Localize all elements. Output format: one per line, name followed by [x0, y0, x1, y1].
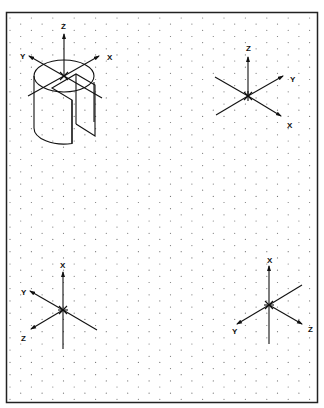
- isometric-drawing-canvas: Z Y X Z Y X X Y Z: [0, 0, 324, 408]
- ucs-icon-bottom-left: X Y Z: [21, 261, 97, 349]
- axis-label-z: Z: [246, 44, 251, 53]
- axis-label-x: X: [287, 121, 293, 130]
- ucs-icon-top-right: Z Y X: [215, 44, 296, 130]
- axis-label-x: X: [60, 261, 66, 270]
- axis-label-y: Y: [290, 75, 296, 84]
- axis-label-z: Z: [21, 334, 26, 343]
- axis-label-y: Y: [232, 327, 238, 336]
- axis-label-x: X: [107, 53, 113, 62]
- axis-label-y: Y: [20, 52, 26, 61]
- axis-label-x: X: [267, 256, 273, 265]
- cylinder-with-ucs: Z Y X: [20, 22, 113, 144]
- ucs-icon-bottom-right: X Y Z: [232, 256, 313, 344]
- axis-label-z: Z: [308, 325, 313, 334]
- axis-label-z: Z: [61, 22, 66, 31]
- axis-label-y: Y: [21, 288, 27, 297]
